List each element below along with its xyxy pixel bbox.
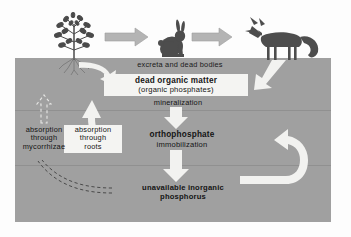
label-absorption-through-roots: absorption through roots [64,126,122,151]
fox-icon [245,17,318,60]
roots-line-3: roots [64,143,122,151]
label-excreta-and-dead-bodies: excreta and dead bodies [105,61,255,69]
food-chain-arrow-plant-to-rabbit [105,28,148,46]
label-mineralization: mineralization [118,99,238,107]
label-immobilization: immobilization [122,141,242,150]
rabbit-icon [158,19,186,57]
food-chain-arrow-rabbit-to-fox [192,28,232,46]
label-phosphorus: phosphorus [113,193,253,202]
phosphorus-cycle-diagram: excreta and dead bodies dead organic mat… [0,0,351,237]
label-organic-phosphates: (organic phosphates) [104,86,248,95]
label-orthophosphate: orthophosphate [122,130,242,139]
label-dead-organic-matter: dead organic matter [104,76,248,85]
